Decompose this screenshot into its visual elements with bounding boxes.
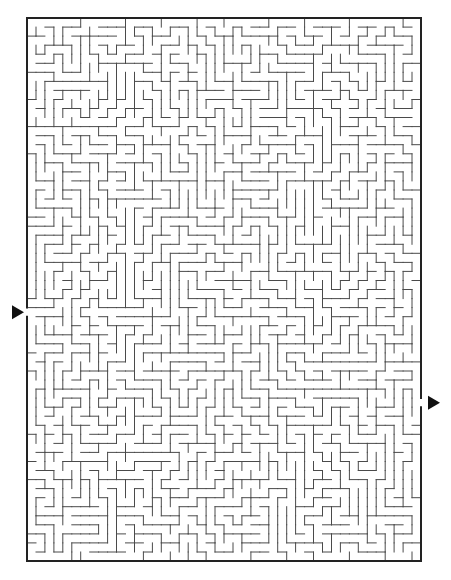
maze-board xyxy=(0,0,451,580)
entrance-arrow-icon xyxy=(12,305,24,319)
exit-arrow-icon xyxy=(428,396,440,410)
maze-walls xyxy=(27,18,421,561)
